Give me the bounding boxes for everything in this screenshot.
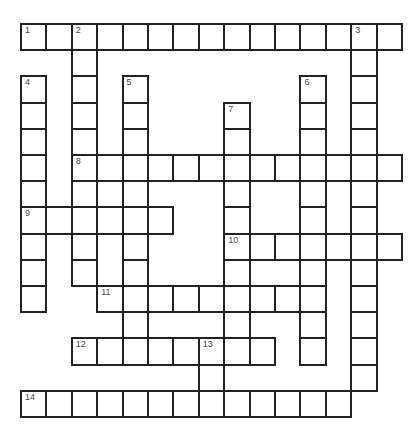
crossword-cell[interactable] <box>299 206 326 234</box>
crossword-cell[interactable] <box>350 49 377 77</box>
crossword-cell[interactable] <box>20 128 47 156</box>
cell-letter-input[interactable] <box>276 156 299 180</box>
cell-letter-input[interactable] <box>98 392 121 416</box>
crossword-cell[interactable] <box>45 206 72 234</box>
cell-letter-input[interactable] <box>301 156 324 180</box>
cell-letter-input[interactable] <box>124 25 147 49</box>
cell-letter-input[interactable] <box>124 235 147 259</box>
crossword-cell[interactable] <box>299 128 326 156</box>
cell-letter-input[interactable] <box>225 156 248 180</box>
crossword-cell[interactable] <box>122 23 149 51</box>
crossword-cell[interactable] <box>122 180 149 208</box>
cell-letter-input[interactable] <box>301 261 324 285</box>
cell-letter-input[interactable] <box>124 104 147 128</box>
cell-letter-input[interactable] <box>124 287 147 311</box>
crossword-cell[interactable] <box>376 233 403 261</box>
cell-letter-input[interactable] <box>352 156 375 180</box>
cell-letter-input[interactable] <box>124 313 147 337</box>
crossword-cell[interactable] <box>325 154 352 182</box>
crossword-cell[interactable] <box>325 23 352 51</box>
crossword-cell[interactable] <box>172 337 199 365</box>
cell-letter-input[interactable] <box>352 261 375 285</box>
crossword-cell[interactable] <box>96 390 123 418</box>
cell-letter-input[interactable] <box>301 130 324 154</box>
crossword-cell[interactable]: 11 <box>96 285 123 313</box>
cell-letter-input[interactable] <box>301 182 324 206</box>
crossword-cell[interactable]: 14 <box>20 390 47 418</box>
crossword-cell[interactable] <box>198 364 225 392</box>
cell-letter-input[interactable] <box>200 25 223 49</box>
cell-letter-input[interactable] <box>200 366 223 390</box>
crossword-cell[interactable] <box>198 285 225 313</box>
cell-letter-input[interactable] <box>73 51 96 75</box>
crossword-cell[interactable] <box>20 154 47 182</box>
cell-letter-input[interactable] <box>149 208 172 232</box>
crossword-cell[interactable] <box>350 206 377 234</box>
cell-letter-input[interactable] <box>149 287 172 311</box>
cell-letter-input[interactable] <box>149 392 172 416</box>
crossword-cell[interactable]: 13 <box>198 337 225 365</box>
cell-letter-input[interactable] <box>98 339 121 363</box>
cell-letter-input[interactable] <box>124 130 147 154</box>
cell-letter-input[interactable] <box>174 392 197 416</box>
cell-letter-input[interactable] <box>149 156 172 180</box>
crossword-cell[interactable] <box>223 259 250 287</box>
cell-letter-input[interactable] <box>200 156 223 180</box>
cell-letter-input[interactable] <box>225 313 248 337</box>
crossword-cell[interactable] <box>122 390 149 418</box>
cell-letter-input[interactable] <box>22 182 45 206</box>
cell-letter-input[interactable] <box>174 287 197 311</box>
crossword-cell[interactable] <box>71 206 98 234</box>
crossword-cell[interactable] <box>274 233 301 261</box>
cell-letter-input[interactable] <box>352 208 375 232</box>
crossword-cell[interactable] <box>350 311 377 339</box>
cell-letter-input[interactable] <box>98 156 121 180</box>
cell-letter-input[interactable] <box>251 287 274 311</box>
crossword-cell[interactable] <box>350 180 377 208</box>
cell-letter-input[interactable] <box>98 25 121 49</box>
cell-letter-input[interactable] <box>124 156 147 180</box>
crossword-cell[interactable] <box>147 154 174 182</box>
crossword-cell[interactable] <box>376 23 403 51</box>
cell-letter-input[interactable] <box>352 104 375 128</box>
cell-letter-input[interactable] <box>251 156 274 180</box>
crossword-cell[interactable] <box>122 259 149 287</box>
crossword-cell[interactable] <box>122 102 149 130</box>
cell-letter-input[interactable] <box>327 25 350 49</box>
crossword-cell[interactable] <box>274 285 301 313</box>
crossword-cell[interactable] <box>71 102 98 130</box>
crossword-cell[interactable] <box>350 102 377 130</box>
cell-letter-input[interactable] <box>124 182 147 206</box>
crossword-cell[interactable]: 6 <box>299 75 326 103</box>
cell-letter-input[interactable] <box>276 235 299 259</box>
cell-letter-input[interactable] <box>149 339 172 363</box>
cell-letter-input[interactable] <box>352 77 375 101</box>
crossword-cell[interactable] <box>249 337 276 365</box>
crossword-cell[interactable] <box>274 390 301 418</box>
crossword-cell[interactable] <box>223 128 250 156</box>
cell-letter-input[interactable] <box>301 25 324 49</box>
crossword-cell[interactable] <box>71 233 98 261</box>
cell-letter-input[interactable] <box>124 339 147 363</box>
cell-letter-input[interactable] <box>352 313 375 337</box>
cell-letter-input[interactable] <box>225 130 248 154</box>
cell-letter-input[interactable] <box>22 104 45 128</box>
cell-letter-input[interactable] <box>47 25 70 49</box>
cell-letter-input[interactable] <box>225 287 248 311</box>
crossword-cell[interactable] <box>147 390 174 418</box>
cell-letter-input[interactable] <box>301 287 324 311</box>
cell-letter-input[interactable] <box>251 25 274 49</box>
cell-letter-input[interactable] <box>47 208 70 232</box>
crossword-cell[interactable]: 12 <box>71 337 98 365</box>
crossword-cell[interactable] <box>299 154 326 182</box>
crossword-cell[interactable]: 1 <box>20 23 47 51</box>
crossword-cell[interactable] <box>223 285 250 313</box>
cell-letter-input[interactable] <box>22 130 45 154</box>
cell-letter-input[interactable] <box>301 313 324 337</box>
cell-letter-input[interactable] <box>327 392 350 416</box>
cell-letter-input[interactable] <box>225 208 248 232</box>
crossword-cell[interactable] <box>122 206 149 234</box>
cell-letter-input[interactable] <box>174 156 197 180</box>
crossword-cell[interactable] <box>274 154 301 182</box>
crossword-cell[interactable] <box>96 337 123 365</box>
